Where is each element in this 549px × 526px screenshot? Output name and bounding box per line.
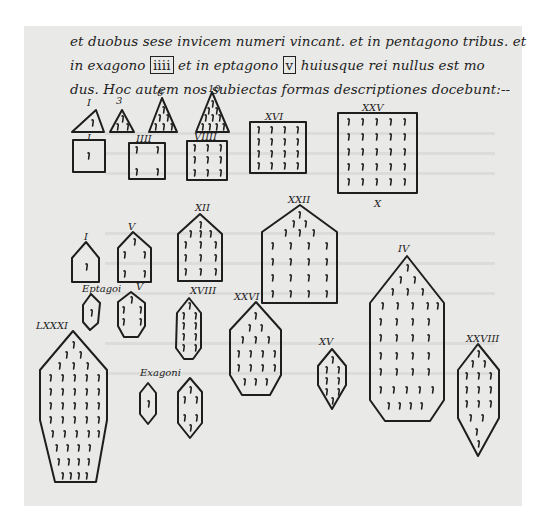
pentagon-figure-22 [262,205,337,303]
hexagon-heading: Exagoni [139,367,181,378]
figures-diagram: I 3 6 10 I IIII VIIII XVI XXV X I V XII … [0,0,549,526]
figure-labels: I 3 6 10 I IIII VIIII XVI XXV X I V XII … [35,83,500,378]
label-heptagon-81: LXXXI [35,320,69,331]
label-square-9: VIIII [194,131,218,142]
label-hexagon-28: XXVIII [465,333,500,344]
heptagon-heading: Eptagoi [81,283,121,294]
square-figure-4 [129,143,165,179]
label-triangle-6: 6 [157,87,164,98]
pentagon-figure-1 [72,242,99,282]
label-hexagon-26: XXVI [233,291,260,302]
heptagon-figure-81 [40,331,107,482]
label-triangle-3: 3 [116,95,122,106]
label-square-25: XXV [361,102,385,113]
label-square-1: I [86,132,92,143]
hexagon-figure-28 [458,344,499,456]
label-pentagon-1: I [83,231,89,242]
label-pentagon-5: V [128,221,137,232]
hexagon-figure-15 [318,349,346,409]
label-triangle-10: 10 [208,83,221,94]
label-triangle-1: I [86,97,92,108]
label-square-16: XVI [264,111,284,122]
label-square-4: IIII [135,133,153,144]
label-pentagon-12: XII [194,202,211,213]
hexagon-figure-small-1 [140,383,156,424]
label-heptagon-large: IV [397,243,411,254]
heptagon-figure-17 [176,298,201,359]
label-hexagon-15: XV [318,336,335,347]
label-pentagon-22: XXII [287,194,311,205]
triangle-figure-1 [72,110,104,132]
label-square-footer: X [373,198,382,209]
